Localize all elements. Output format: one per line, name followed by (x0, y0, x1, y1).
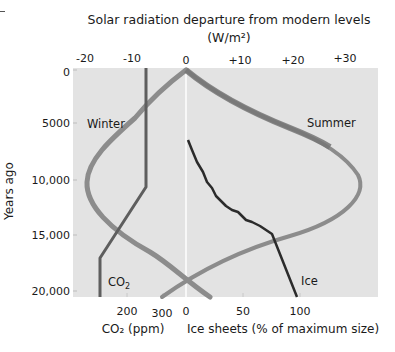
co2-axis-label: CO₂ (ppm) (102, 322, 165, 336)
co2-tick-200: 200 (117, 305, 138, 318)
ice-axis-label: Ice sheets (% of maximum size) (187, 322, 379, 336)
summer-label: Summer (307, 116, 356, 130)
ice-tick-50: 50 (236, 305, 250, 318)
chart-plot: Winter Summer CO2 Ice (0, 0, 395, 352)
co2-tick-300: 300 (152, 307, 173, 320)
plot-area (73, 68, 378, 297)
ice-tick-0: 0 (183, 305, 190, 318)
ice-series-label: Ice (301, 274, 318, 288)
winter-label: Winter (87, 117, 125, 131)
ice-tick-100: 100 (290, 305, 311, 318)
